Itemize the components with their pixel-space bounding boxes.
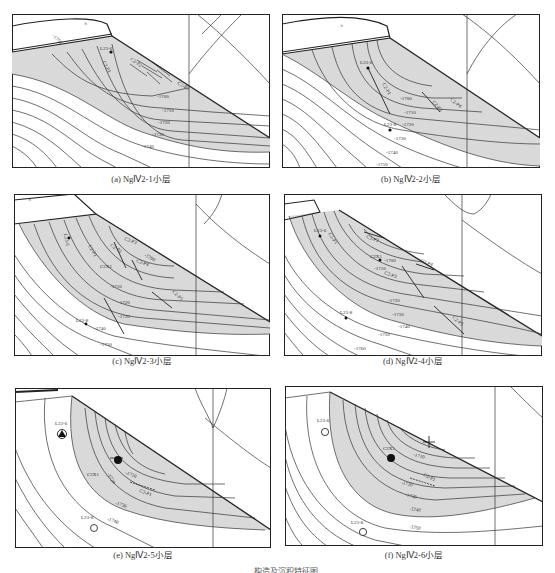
contour-label: -1720: [402, 122, 414, 127]
contour-label: -1720: [158, 120, 170, 125]
contour-label: -1700: [400, 96, 412, 101]
contour-map-b: L23-6 L23-8 -1700 -1710 -1720 -1730 -174…: [282, 14, 540, 168]
panel-caption: (b) NgⅣ2-2小层: [282, 172, 540, 184]
cross-marker: ×: [28, 197, 31, 203]
well-label: L23-6: [55, 421, 68, 426]
well-label: C2X1: [383, 446, 395, 451]
contour-label: -1740: [386, 150, 398, 155]
well-l23-8-marker: [359, 528, 366, 535]
contour-map-a: L23-6 -1700 -1710 -1720 -1730 -1740 -175…: [12, 14, 270, 168]
panel-f: L23-6 C2X1 L23-8 -1710 -1720 -1730 -1740…: [285, 386, 543, 558]
contour-map-d: L23-6 C2X1 L23-8 -1700 -1710 -1720 -1730…: [284, 194, 542, 356]
contour-map-c: L23-6 L23-8 C2X1 -1700 -1710 -1720 -1730…: [14, 194, 270, 356]
well-label: C2X1: [370, 254, 382, 259]
cross-marker: ×: [84, 21, 87, 27]
well-label: L23-8: [81, 515, 94, 520]
contour-label: -1720: [118, 300, 130, 305]
contour-label: -1720: [388, 298, 400, 303]
contour-label: -1730: [394, 136, 406, 141]
contour-label: -1750: [376, 162, 388, 167]
well-label: L23-8: [351, 520, 364, 525]
contour-label: -1730: [118, 314, 130, 319]
contour-map-f: L23-6 C2X1 L23-8 -1710 -1720 -1730 -1740…: [285, 386, 543, 546]
well-label: L23-8: [76, 318, 89, 323]
well-label: L23-8: [384, 122, 397, 127]
panel-caption: (e) NgⅣ2-5小层: [15, 548, 271, 560]
well-c2x1-marker: [114, 456, 122, 464]
panel-caption: (f) NgⅣ2-6小层: [285, 548, 543, 560]
well-l23-8-marker: [91, 525, 98, 532]
contour-label: -1750: [100, 342, 112, 347]
panel-caption: (c) NgⅣ2-3小层: [14, 354, 270, 366]
well-c2x1-marker: [387, 454, 395, 462]
figure-caption: ……构造及沉积特征图: [0, 566, 555, 573]
panel-b: L23-6 L23-8 -1700 -1710 -1720 -1730 -174…: [282, 14, 540, 172]
well-label: L23-8: [340, 310, 353, 315]
contour-map-e: L23-6 C2X1 L23-8 -1710 -1720 -1730 -1740…: [15, 388, 271, 548]
panel-caption: (d) NgⅣ2-4小层: [284, 354, 542, 366]
contour-label: -1710: [110, 284, 122, 289]
panel-c: L23-6 L23-8 C2X1 -1700 -1710 -1720 -1730…: [14, 194, 270, 364]
well-l23-6-marker: [58, 430, 67, 439]
panel-caption: (a) NgⅣ2-1小层: [12, 172, 270, 184]
well-label: C2X1: [87, 472, 99, 477]
panel-e: L23-6 C2X1 L23-8 -1710 -1720 -1730 -1740…: [15, 388, 271, 558]
well-label: L23-6: [100, 46, 113, 51]
contour-label: -1750: [378, 332, 390, 337]
contour-label: -1710: [162, 108, 174, 113]
contour-label: -1740: [398, 324, 410, 329]
contour-label: -1730: [152, 132, 164, 137]
cross-marker: ×: [340, 23, 343, 29]
well-label: L23-6: [317, 418, 330, 423]
well-label: C2X1: [100, 264, 112, 269]
well-label: L23-6: [314, 228, 327, 233]
contour-label: -1700: [157, 94, 169, 99]
contour-label: -1760: [354, 346, 366, 351]
contour-label: -1700: [384, 258, 396, 263]
contour-label: -1730: [392, 312, 404, 317]
panel-d: L23-6 C2X1 L23-8 -1700 -1710 -1720 -1730…: [284, 194, 542, 364]
well-l23-6-marker: [321, 428, 328, 435]
panel-a: L23-6 -1700 -1710 -1720 -1730 -1740 -175…: [12, 14, 270, 172]
contour-label: -1710: [404, 110, 416, 115]
contour-label: -1740: [94, 326, 106, 331]
well-label: L23-6: [360, 60, 373, 65]
contour-label: -1740: [142, 144, 154, 149]
